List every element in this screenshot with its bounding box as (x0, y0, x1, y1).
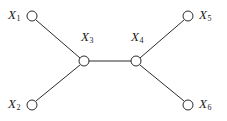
node-x4[interactable] (131, 56, 141, 66)
label-letter: X (199, 96, 207, 111)
label-subscript: 5 (207, 14, 211, 23)
node-label-x2: X2 (8, 97, 20, 110)
label-letter: X (199, 7, 207, 22)
graph-canvas (0, 0, 227, 121)
label-letter: X (81, 29, 89, 44)
edges-group (36, 20, 184, 101)
node-x6[interactable] (183, 100, 193, 110)
edge-x4-x6 (140, 65, 184, 101)
label-letter: X (8, 7, 16, 22)
label-subscript: 1 (16, 14, 20, 23)
label-subscript: 4 (139, 36, 143, 45)
graph-diagram: X1X2X3X4X5X6 (0, 0, 227, 121)
node-label-x4: X4 (131, 30, 143, 43)
node-x5[interactable] (183, 11, 193, 21)
edge-x1-x3 (36, 20, 80, 58)
node-x2[interactable] (27, 100, 37, 110)
label-subscript: 6 (207, 103, 211, 112)
edge-x2-x3 (36, 65, 80, 101)
node-label-x5: X5 (199, 8, 211, 21)
label-letter: X (8, 96, 16, 111)
node-label-x1: X1 (8, 8, 20, 21)
node-label-x6: X6 (199, 97, 211, 110)
edge-x4-x5 (140, 20, 184, 58)
node-x1[interactable] (27, 11, 37, 21)
label-subscript: 2 (16, 103, 20, 112)
node-label-x3: X3 (81, 30, 93, 43)
node-x3[interactable] (79, 56, 89, 66)
label-letter: X (131, 29, 139, 44)
label-subscript: 3 (89, 36, 93, 45)
